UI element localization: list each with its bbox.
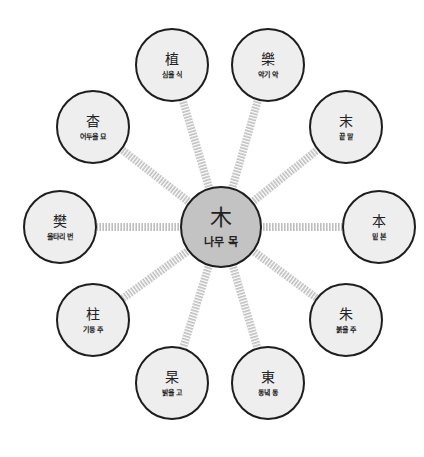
node-hanja: 杲 (165, 370, 179, 384)
node-meaning: 어두울 묘 (80, 134, 106, 141)
node-instrument[interactable]: 樂 악기 악 (231, 28, 305, 102)
node-fence[interactable]: 樊 울타리 번 (23, 190, 97, 264)
node-meaning: 악기 악 (258, 72, 278, 79)
node-hanja: 東 (261, 370, 275, 384)
node-hanja: 杳 (86, 114, 100, 128)
node-root[interactable]: 本 밑 본 (342, 190, 416, 264)
node-meaning: 붉을 주 (336, 327, 356, 334)
node-hanja: 末 (339, 114, 353, 128)
node-hanja: 朱 (339, 307, 353, 321)
node-end[interactable]: 末 끝 말 (309, 90, 383, 164)
node-hanja: 樂 (261, 52, 275, 66)
node-meaning: 밑 본 (372, 234, 386, 241)
connector-line (252, 248, 319, 301)
center-meaning: 나무 목 (204, 237, 238, 248)
connector-line (179, 99, 213, 189)
connector-line (121, 248, 191, 302)
node-hanja: 柱 (86, 307, 100, 321)
node-meaning: 울타리 번 (47, 234, 73, 241)
node-bright[interactable]: 杲 밝을 고 (135, 346, 209, 420)
connector-line (229, 265, 261, 349)
node-hanja: 本 (372, 214, 386, 228)
node-meaning: 동녘 동 (258, 390, 278, 397)
node-plant[interactable]: 植 심을 식 (135, 28, 209, 102)
connector-line (262, 223, 342, 231)
center-hanja: 木 (210, 207, 232, 229)
connector-line (229, 99, 262, 188)
node-meaning: 끝 말 (339, 134, 353, 141)
hanja-radial-diagram: 木 나무 목 植 심을 식 樂 악기 악 末 끝 말 本 밑 본 朱 붉을 주 … (0, 0, 424, 457)
node-meaning: 기둥 주 (83, 327, 103, 334)
node-red[interactable]: 朱 붉을 주 (309, 283, 383, 357)
connector-line (97, 223, 180, 231)
node-hanja: 植 (165, 52, 179, 66)
node-dark[interactable]: 杳 어두울 묘 (56, 90, 130, 164)
node-hanja: 樊 (53, 214, 67, 228)
connector-line (251, 147, 320, 205)
node-east[interactable]: 東 동녘 동 (231, 346, 305, 420)
center-node[interactable]: 木 나무 목 (180, 186, 262, 268)
node-meaning: 밝을 고 (162, 390, 182, 397)
connector-line (179, 265, 212, 349)
node-pillar[interactable]: 柱 기둥 주 (56, 283, 130, 357)
connector-line (120, 147, 191, 205)
node-meaning: 심을 식 (162, 72, 182, 79)
